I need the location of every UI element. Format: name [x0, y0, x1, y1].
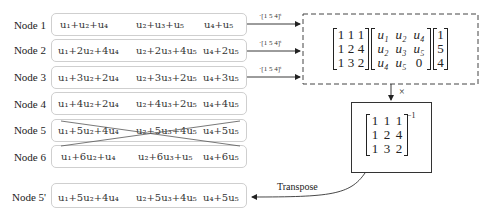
- coefficient-matrix: 111 124 132: [333, 28, 369, 70]
- vector-multiply-label: ·[1 5 4]ᵗ: [259, 65, 281, 73]
- variable-matrix: u₁u₂u₄ u₂u₃u₅ u₄u₅0: [371, 28, 431, 70]
- inverse-matrix-expression: 111 124 132: [366, 114, 408, 156]
- product-expression: 111 124 132 u₁u₂u₄ u₂u₃u₅ u₄u₅0 1 5 4: [333, 28, 448, 70]
- vector-multiply-label: ·[1 5 4]ᵗ: [259, 39, 281, 47]
- weight-vector: 1 5 4: [433, 28, 448, 70]
- transpose-label: Transpose: [277, 181, 318, 192]
- inverse-superscript: −1: [407, 111, 416, 120]
- multiply-sign: ×: [399, 86, 405, 97]
- vector-multiply-label: ·[1 5 4]ᵗ: [259, 12, 281, 20]
- inverse-matrix: 111 124 132: [366, 114, 408, 156]
